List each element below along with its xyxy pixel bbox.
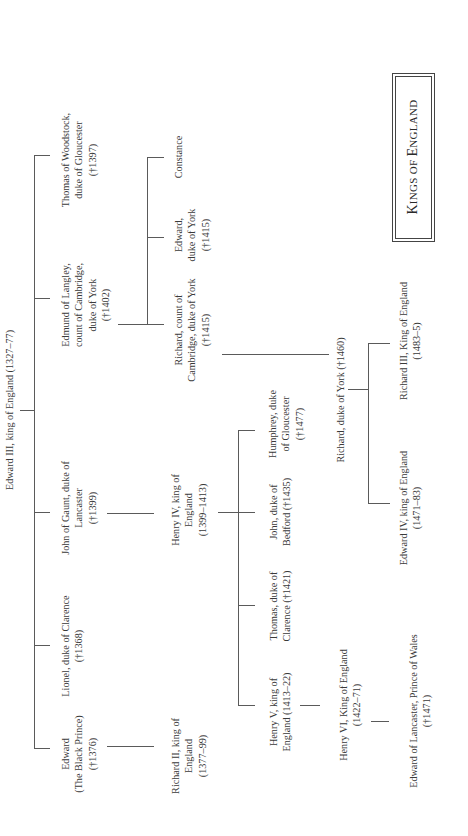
person-dates: (†1368) (72, 595, 85, 696)
connector-tick-richard-iii (368, 343, 390, 344)
person-name: John, duke of (267, 478, 280, 546)
title-smallcaps: NGLAND (407, 99, 419, 147)
connector-york-sons (348, 389, 368, 390)
connector-tick-edward-york (147, 237, 164, 238)
person-dates: (1422–71) (350, 649, 363, 761)
person-name: Edward III, king of England (1327–77) (3, 330, 16, 490)
connector-tick-richard-cambridge (147, 324, 164, 325)
title-initial: E (405, 148, 420, 157)
person-name: Lionel, duke of Clarence (59, 595, 72, 696)
person-title: of Gloucester (279, 390, 292, 458)
person-title: England (182, 718, 195, 794)
person-name: John of Gaunt, duke of (59, 461, 72, 555)
person-title: Clarence (†1421) (280, 571, 293, 642)
connector-tick-john-gaunt (34, 512, 50, 513)
person-title: count of Cambridge, (73, 263, 86, 347)
person-dates: (†1471) (420, 634, 433, 788)
connector-tick-john-bedford (238, 512, 255, 513)
person-name: Henry V, king of (267, 673, 280, 752)
person-dates: (1471–83) (410, 451, 423, 565)
connector-gaunt-to-henry-iv (107, 513, 154, 514)
person-name: Edward of Lancaster, Prince of Wales (407, 634, 420, 788)
title-smallcaps: INGS OF (407, 157, 419, 205)
person-dates: (†1415) (199, 209, 212, 262)
person-dates: (1377–99) (196, 718, 209, 794)
person-dates: (†1399) (86, 461, 99, 555)
person-dates: England (1413–22) (280, 673, 293, 752)
person-dates: (†1402) (99, 263, 112, 347)
connector-tick-constance (147, 157, 164, 158)
connector-edmund-children (118, 324, 148, 325)
diagram-title: KINGS OF ENGLAND (405, 99, 421, 214)
person-name: Constance (172, 136, 185, 178)
person-name: Henry IV, king of (169, 474, 182, 546)
connector-henry-iv-children (218, 512, 239, 513)
person-name: Edward, (172, 209, 185, 262)
person-name: Richard, count of (172, 278, 185, 381)
person-title: Cambridge, duke of York (185, 278, 198, 381)
connector-tick-black-prince (34, 748, 50, 749)
connector-tick-edward-iv (368, 503, 390, 504)
person-dates: (1483–5) (410, 282, 423, 400)
person-dates: (†1477) (293, 390, 306, 458)
person-name: Edward IV, king of England (397, 451, 410, 565)
person-name: Edward (59, 715, 72, 793)
person-name: Edmund of Langley, (59, 263, 72, 347)
connector-cambridge-to-york (222, 354, 329, 355)
connector-york-sons-bracket (368, 343, 369, 503)
person-title: duke of York (185, 209, 198, 262)
person-title: England (182, 474, 195, 546)
connector-tick-thomas-woodstock (34, 155, 50, 156)
person-name: Henry VI, King of England (337, 649, 350, 761)
person-name: Humphrey, duke (266, 390, 279, 458)
connector-york-bracket (147, 157, 148, 325)
connector-henry-v-to-henry-vi (300, 705, 320, 706)
connector-tick-thomas-clarence (238, 605, 255, 606)
person-dates: (1399–1413) (196, 474, 209, 546)
person-dates: (†1397) (86, 113, 99, 207)
person-title: duke of York (86, 263, 99, 347)
connector-root-stem (20, 410, 35, 411)
person-title: Lancaster (72, 461, 85, 555)
person-title: (The Black Prince) (72, 715, 85, 793)
connector-black-prince-to-richard-ii (107, 746, 154, 747)
person-name: Richard III, King of England (397, 282, 410, 400)
person-dates: (†1415) (199, 278, 212, 381)
connector-tick-henry-v (238, 705, 255, 706)
connector-gen1-bracket (34, 155, 35, 749)
connector-tick-edmund (34, 298, 50, 299)
person-title: Bedford (†1435) (280, 478, 293, 546)
person-name: Thomas of Woodstock, (59, 113, 72, 207)
person-dates: (†1376) (86, 715, 99, 793)
person-name: Richard, duke of York (†1460) (334, 337, 347, 462)
person-name: Thomas, duke of (267, 571, 280, 642)
connector-tick-humphrey (238, 430, 255, 431)
connector-henry-vi-to-edward-lancaster (371, 721, 389, 722)
person-name: Richard II, king of (169, 718, 182, 794)
person-title: duke of Gloucester (72, 113, 85, 207)
connector-tick-lionel (34, 645, 50, 646)
title-initial: K (405, 204, 420, 214)
connector-henry-iv-bracket (238, 430, 239, 706)
